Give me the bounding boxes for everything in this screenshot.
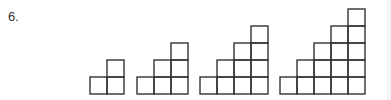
square-cell	[154, 60, 171, 77]
square-cell	[348, 26, 365, 43]
square-cell	[297, 60, 314, 77]
square-cell	[331, 43, 348, 60]
square-cell	[171, 77, 188, 94]
square-cell	[234, 43, 251, 60]
square-cell	[331, 26, 348, 43]
staircase-4	[200, 26, 268, 94]
square-cell	[251, 43, 268, 60]
square-cell	[217, 77, 234, 94]
square-cell	[251, 26, 268, 43]
square-cell	[90, 77, 107, 94]
square-cell	[234, 60, 251, 77]
square-cell	[297, 77, 314, 94]
square-cell	[251, 77, 268, 94]
square-cell	[348, 43, 365, 60]
square-cell	[137, 77, 154, 94]
square-cell	[171, 60, 188, 77]
square-cell	[171, 43, 188, 60]
staircase-5	[280, 9, 365, 94]
square-cell	[234, 77, 251, 94]
square-cell	[348, 77, 365, 94]
square-cell	[314, 77, 331, 94]
square-cell	[331, 77, 348, 94]
square-cell	[154, 77, 171, 94]
square-cell	[251, 60, 268, 77]
staircase-2	[90, 60, 124, 94]
staircase-3	[137, 43, 188, 94]
staircase-figure	[0, 0, 391, 100]
square-cell	[107, 60, 124, 77]
page-edge	[387, 0, 391, 100]
square-cell	[348, 9, 365, 26]
square-cell	[107, 77, 124, 94]
square-cell	[348, 60, 365, 77]
square-cell	[314, 43, 331, 60]
square-cell	[280, 77, 297, 94]
square-cell	[217, 60, 234, 77]
square-cell	[200, 77, 217, 94]
square-cell	[331, 60, 348, 77]
square-cell	[314, 60, 331, 77]
